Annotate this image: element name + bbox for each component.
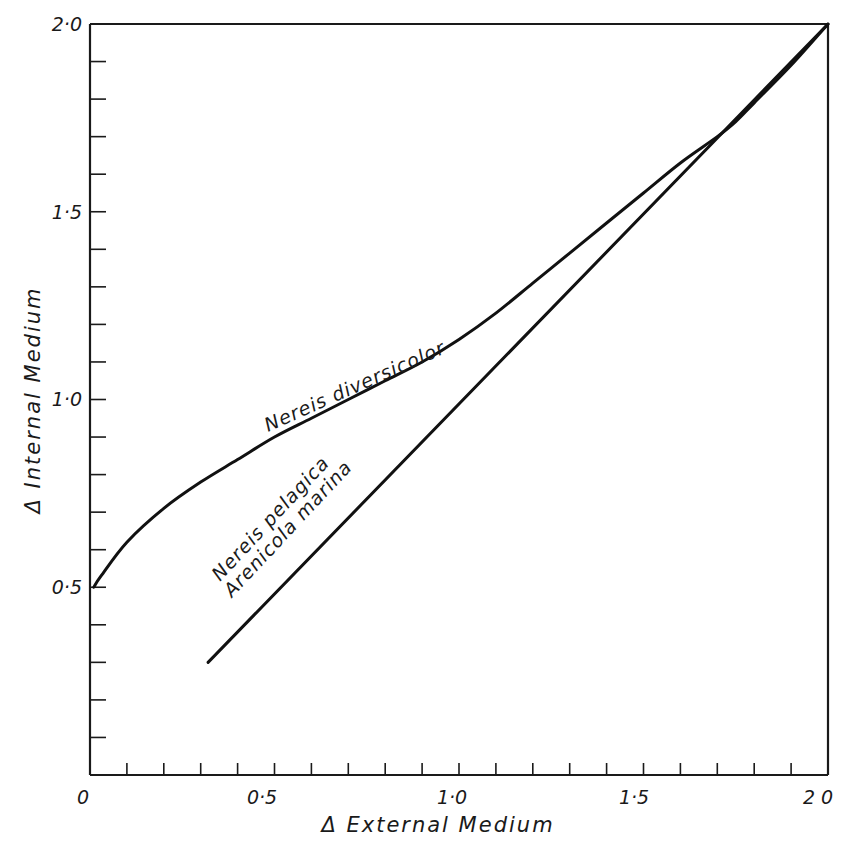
y-tick-label-0.5: 0·5: [52, 576, 82, 598]
series-label-nereis-pelagica: Nereis pelagica: [207, 451, 333, 584]
series-label-nereis-diversicolor: Nereis diversicolor: [261, 336, 449, 436]
x-tick-labels: 0 0·5 1·0 1·5 2 0: [77, 786, 833, 808]
y-axis-title: Δ Internal Medium: [21, 287, 45, 516]
x-tick-label-1.5: 1·5: [619, 786, 649, 808]
y-tick-labels: 0·5 1·0 1·5 2·0: [52, 13, 82, 598]
y-tick-label-2.0: 2·0: [52, 13, 82, 35]
chart-canvas: 0·5 1·0 1·5 2·0 0 0·5 1·0 1·5 2 0 Δ Exte…: [0, 0, 846, 842]
x-tick-label-2.0: 2 0: [803, 786, 833, 808]
series-line-nereis-diversicolor: [94, 24, 828, 587]
y-tick-label-1.0: 1·0: [52, 388, 82, 410]
x-axis-ticks: [127, 763, 791, 775]
x-tick-label-0.5: 0·5: [247, 786, 277, 808]
x-tick-label-0: 0: [77, 786, 89, 808]
x-axis-title: Δ External Medium: [319, 813, 554, 837]
y-tick-label-1.5: 1·5: [52, 201, 82, 223]
y-axis-ticks: [90, 62, 106, 738]
x-tick-label-1.0: 1·0: [437, 786, 467, 808]
series-line-nereis-pelagica-arenicola-marina: [208, 24, 828, 662]
